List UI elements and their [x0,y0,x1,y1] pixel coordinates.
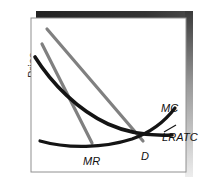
label-d: D [141,150,149,162]
economics-chart-figure: Price [0,0,210,182]
label-mc: MC [161,102,178,114]
label-lratc: LRATC [162,131,198,143]
plot-frame [31,18,186,172]
label-mr: MR [83,155,100,167]
chart-canvas: MC LRATC D MR [0,0,210,182]
